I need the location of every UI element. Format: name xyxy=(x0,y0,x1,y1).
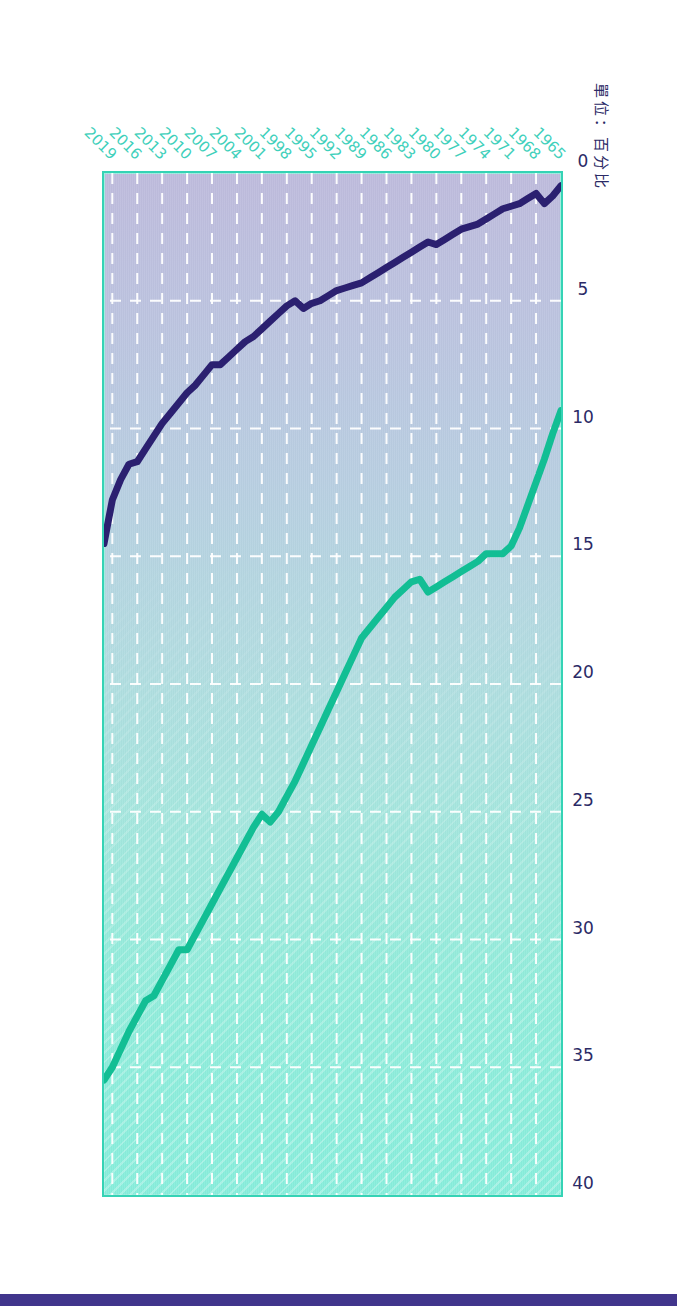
value-tick-label: 35 xyxy=(572,1045,594,1065)
series-lines xyxy=(104,173,561,1195)
line-teal-series xyxy=(104,411,561,1080)
value-tick-label: 25 xyxy=(572,790,594,810)
line-navy-series xyxy=(104,186,561,544)
value-tick-label: 40 xyxy=(572,1173,594,1193)
value-tick-label: 5 xyxy=(577,279,588,299)
chart-stage: 單位：百分比 0510152025303540 1965196819711974… xyxy=(59,83,619,1223)
chart: 單位：百分比 0510152025303540 1965196819711974… xyxy=(59,83,619,1223)
chart-unit-title: 單位：百分比 xyxy=(592,83,613,191)
value-tick-label: 20 xyxy=(572,662,594,682)
value-tick-label: 15 xyxy=(572,534,594,554)
value-tick-label: 0 xyxy=(577,151,588,171)
value-tick-label: 30 xyxy=(572,918,594,938)
value-tick-label: 10 xyxy=(572,407,594,427)
plot-area xyxy=(102,171,563,1197)
page-footer-band xyxy=(0,1294,677,1306)
